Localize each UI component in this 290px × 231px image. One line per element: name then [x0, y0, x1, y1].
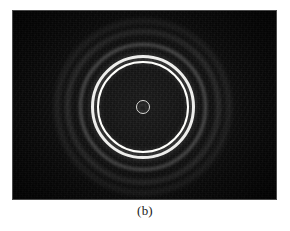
bright-ring-glow: [91, 55, 195, 159]
faint-ring-1: [79, 43, 207, 171]
film-grain-texture: [13, 11, 276, 199]
central-spot-ring: [136, 100, 150, 114]
inner-bright-ring: [97, 61, 189, 153]
figure-caption: (b): [0, 203, 290, 219]
outer-bright-ring: [91, 55, 195, 159]
faint-ring-3: [55, 19, 231, 195]
figure-container: (b): [0, 0, 290, 231]
central-halo: [13, 11, 276, 199]
plate-vignette: [13, 11, 276, 199]
central-spot-core: [139, 103, 148, 112]
diffraction-plate: [13, 11, 276, 199]
faint-ring-2: [66, 30, 220, 184]
